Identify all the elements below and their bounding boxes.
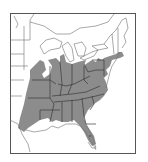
range-map [0,0,148,162]
florida-marker [89,135,91,137]
range-map-svg [0,0,148,162]
